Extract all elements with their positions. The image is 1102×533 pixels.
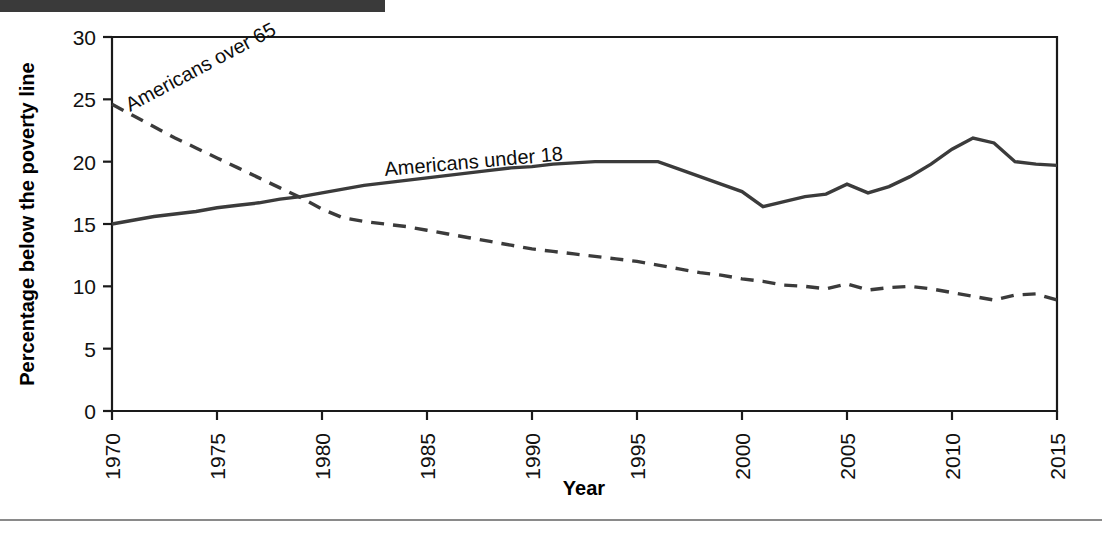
footer-divider: [0, 519, 1102, 521]
x-tick-label: 1990: [521, 433, 544, 480]
x-axis-ticks: [112, 411, 1057, 420]
x-axis-title: Year: [563, 477, 605, 499]
x-tick-label: 1975: [206, 433, 229, 480]
y-axis-title: Percentage below the poverty line: [16, 62, 38, 385]
plot-frame: [112, 37, 1057, 411]
x-tick-label: 2005: [836, 433, 859, 480]
series-label-americans-under-18: Americans under 18: [383, 142, 563, 180]
y-tick-label: 0: [84, 400, 96, 423]
x-tick-label: 2015: [1046, 433, 1069, 480]
series-line-americans-under-18: [112, 138, 1057, 224]
x-tick-label: 1985: [416, 433, 439, 480]
x-tick-label: 1970: [101, 433, 124, 480]
y-tick-label: 5: [84, 338, 96, 361]
y-axis-tick-labels: 051015202530: [73, 26, 96, 423]
x-tick-label: 1995: [626, 433, 649, 480]
chart-area: 051015202530 197019751980198519901995200…: [0, 0, 1102, 533]
y-axis-ticks: [103, 37, 112, 411]
y-tick-label: 15: [73, 213, 96, 236]
figure-container: 051015202530 197019751980198519901995200…: [0, 0, 1102, 533]
y-tick-label: 25: [73, 88, 96, 111]
series-label-americans-over-65: Americans over 65: [122, 18, 280, 116]
y-tick-label: 20: [73, 151, 96, 174]
x-tick-label: 2000: [731, 433, 754, 480]
y-tick-label: 30: [73, 26, 96, 49]
x-tick-label: 1980: [311, 433, 334, 480]
y-tick-label: 10: [73, 275, 96, 298]
poverty-line-chart: 051015202530 197019751980198519901995200…: [0, 0, 1102, 533]
x-axis-tick-labels: 1970197519801985199019952000200520102015: [101, 433, 1069, 480]
x-tick-label: 2010: [941, 433, 964, 480]
